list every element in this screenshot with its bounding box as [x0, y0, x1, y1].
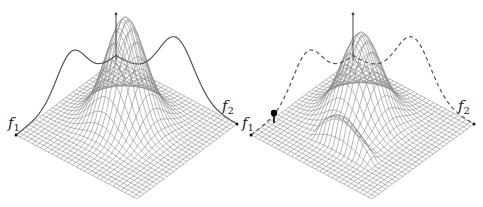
right-axis-end-f2-dot	[473, 123, 476, 126]
left-f1-sub: 1	[14, 122, 20, 133]
left-f2-sub: 2	[228, 105, 234, 116]
mesh-line	[328, 100, 430, 175]
panel-left-surface-plot: f1 f2	[7, 13, 239, 199]
mesh-line	[113, 63, 234, 127]
left-f2-label: f2	[221, 97, 234, 116]
mesh-line	[350, 63, 471, 127]
mesh-line	[113, 111, 213, 186]
right-f1-label: f1	[241, 114, 254, 133]
right-f2-label: f2	[457, 97, 470, 116]
mesh-line	[121, 116, 221, 191]
right-wireframe-mesh	[251, 32, 474, 199]
mesh-line	[125, 118, 225, 193]
right-f2-sub: 2	[464, 105, 470, 116]
mesh-line	[20, 62, 120, 137]
panel-right-surface-plot: f1 f2	[241, 13, 476, 199]
left-vertical-axis-tip	[115, 13, 118, 16]
mesh-line	[360, 118, 462, 193]
left-axis-end-f2-dot	[236, 123, 239, 126]
mesh-line	[36, 71, 136, 146]
mesh-line	[49, 110, 170, 174]
mesh-line	[356, 116, 458, 191]
mesh-line	[39, 118, 160, 182]
mesh-line	[275, 118, 396, 182]
mesh-line	[364, 120, 466, 195]
mesh-line	[344, 109, 446, 184]
right-f1-sub: 1	[248, 122, 254, 133]
mesh-line	[268, 123, 389, 187]
mesh-line	[282, 113, 403, 177]
mesh-line	[287, 54, 389, 154]
left-wireframe-mesh	[16, 17, 237, 199]
mesh-line	[83, 43, 204, 149]
figure: f1 f2 f1 f2	[0, 0, 483, 207]
mesh-line	[56, 44, 156, 156]
right-vertical-axis-tip	[352, 13, 355, 16]
mesh-line	[305, 41, 426, 159]
mesh-line	[64, 21, 164, 160]
left-axis-origin-f1-dot	[15, 134, 18, 137]
right-axis-origin-f1-dot	[250, 134, 253, 137]
mesh-line	[340, 107, 442, 182]
left-f1-label: f1	[7, 114, 20, 133]
mesh-line	[336, 105, 438, 180]
right-point-marker	[271, 110, 277, 116]
mesh-line	[105, 107, 205, 182]
mesh-line	[129, 120, 229, 195]
mesh-line	[271, 120, 392, 184]
